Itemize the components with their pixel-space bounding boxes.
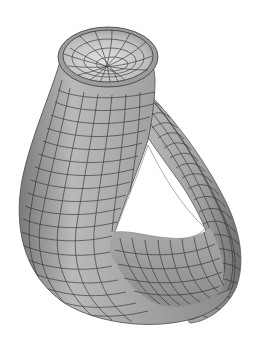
klein-bottle-render (0, 0, 263, 348)
bottle-mouth (58, 27, 158, 87)
